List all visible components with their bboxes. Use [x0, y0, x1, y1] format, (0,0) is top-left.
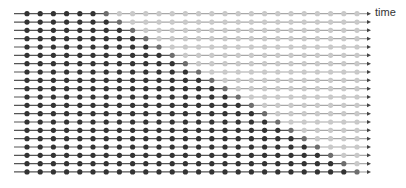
event-dot-pending — [354, 144, 359, 149]
event-dot-pending — [196, 19, 201, 24]
event-dot-complete — [51, 19, 56, 24]
event-dot-pending — [183, 44, 188, 49]
event-dot-pending — [288, 69, 293, 74]
event-dot-pending — [328, 69, 333, 74]
event-dot-pending — [275, 53, 280, 58]
event-dot-pending — [249, 78, 254, 83]
event-dot-complete — [24, 28, 29, 33]
event-dot-pending — [275, 44, 280, 49]
event-dot-complete — [236, 111, 241, 116]
event-dot-complete — [236, 128, 241, 133]
timeline-row — [14, 103, 371, 108]
timeline-row — [14, 94, 371, 99]
event-dot-complete — [183, 144, 188, 149]
event-dot-complete — [77, 94, 82, 99]
event-dot-complete — [38, 161, 43, 166]
event-dot-complete — [38, 169, 43, 174]
event-dot-complete — [130, 36, 135, 41]
event-dot-pending — [236, 36, 241, 41]
event-dot-complete — [222, 161, 227, 166]
event-dot-pending — [275, 86, 280, 91]
event-dot-current — [143, 36, 148, 41]
event-dot-pending — [130, 19, 135, 24]
event-dot-complete — [24, 169, 29, 174]
event-dot-complete — [315, 161, 320, 166]
event-dot-current — [262, 111, 267, 116]
event-dot-pending — [196, 53, 201, 58]
event-dot-complete — [170, 161, 175, 166]
event-dot-complete — [104, 36, 109, 41]
event-dot-pending — [262, 94, 267, 99]
event-dot-pending — [302, 11, 307, 16]
arrowhead-icon — [367, 87, 371, 91]
event-dot-complete — [143, 69, 148, 74]
event-dot-pending — [275, 103, 280, 108]
arrowhead-icon — [367, 70, 371, 74]
event-dot-complete — [51, 11, 56, 16]
event-dot-complete — [104, 119, 109, 124]
event-dot-complete — [209, 136, 214, 141]
event-dot-pending — [328, 61, 333, 66]
arrowhead-icon — [367, 12, 371, 16]
event-dot-complete — [275, 161, 280, 166]
event-dot-pending — [354, 11, 359, 16]
event-dot-current — [328, 153, 333, 158]
event-dot-pending — [130, 11, 135, 16]
event-dot-pending — [288, 28, 293, 33]
event-dot-complete — [209, 94, 214, 99]
timeline-row — [14, 53, 371, 58]
event-dot-complete — [170, 128, 175, 133]
event-dot-complete — [143, 78, 148, 83]
event-dot-complete — [130, 128, 135, 133]
event-dot-complete — [222, 169, 227, 174]
event-dot-complete — [143, 153, 148, 158]
arrowhead-icon — [367, 28, 371, 32]
timeline-row — [14, 169, 371, 174]
event-dot-current — [222, 86, 227, 91]
event-dot-complete — [117, 69, 122, 74]
event-dot-pending — [341, 28, 346, 33]
event-dot-pending — [302, 19, 307, 24]
event-dot-complete — [117, 94, 122, 99]
event-dot-complete — [130, 53, 135, 58]
event-dot-complete — [104, 53, 109, 58]
event-dot-complete — [143, 136, 148, 141]
event-dot-pending — [275, 19, 280, 24]
arrowhead-icon — [367, 45, 371, 49]
event-dot-complete — [77, 78, 82, 83]
event-dot-complete — [275, 169, 280, 174]
event-dot-pending — [328, 78, 333, 83]
event-dot-complete — [90, 28, 95, 33]
event-dot-complete — [64, 36, 69, 41]
event-dot-complete — [24, 36, 29, 41]
event-dot-complete — [51, 144, 56, 149]
event-dot-pending — [302, 94, 307, 99]
event-dot-pending — [315, 44, 320, 49]
event-dot-complete — [24, 78, 29, 83]
event-dot-pending — [354, 86, 359, 91]
event-dot-current — [209, 78, 214, 83]
event-dot-pending — [262, 78, 267, 83]
event-dot-complete — [183, 169, 188, 174]
event-dot-complete — [64, 103, 69, 108]
event-dot-complete — [262, 144, 267, 149]
event-dot-pending — [354, 78, 359, 83]
event-dot-complete — [249, 111, 254, 116]
event-dot-complete — [209, 119, 214, 124]
event-dot-pending — [328, 53, 333, 58]
event-dot-pending — [341, 11, 346, 16]
event-dot-complete — [104, 86, 109, 91]
event-dot-complete — [170, 153, 175, 158]
event-dot-complete — [77, 161, 82, 166]
timeline-row — [14, 153, 371, 158]
event-dot-complete — [156, 169, 161, 174]
event-dot-pending — [170, 44, 175, 49]
event-dot-complete — [288, 136, 293, 141]
event-dot-complete — [24, 144, 29, 149]
event-dot-pending — [288, 53, 293, 58]
event-dot-pending — [156, 11, 161, 16]
event-dot-complete — [117, 144, 122, 149]
event-dot-pending — [302, 44, 307, 49]
event-dot-complete — [38, 44, 43, 49]
event-dot-complete — [130, 136, 135, 141]
